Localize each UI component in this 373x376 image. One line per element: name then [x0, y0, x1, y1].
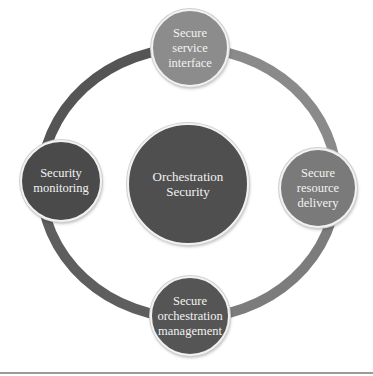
node-label: Secure resource delivery	[281, 166, 355, 211]
center-node-orchestration-security: Orchestration Security	[127, 123, 249, 245]
node-label: Secure orchestration management	[151, 294, 228, 339]
node-secure-orchestration-management: Secure orchestration management	[150, 276, 230, 356]
center-node-label: Orchestration Security	[129, 169, 247, 199]
node-security-monitoring: Security monitoring	[20, 140, 102, 222]
node-secure-service-interface: Secure service interface	[151, 9, 229, 87]
node-label: Security monitoring	[21, 166, 101, 196]
bottom-rule	[0, 372, 373, 374]
node-label: Secure service interface	[153, 26, 227, 71]
node-secure-resource-delivery: Secure resource delivery	[279, 148, 357, 228]
